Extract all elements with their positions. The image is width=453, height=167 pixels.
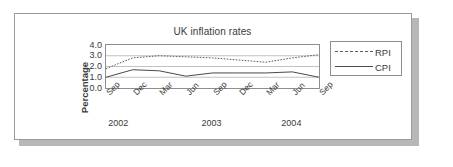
chart-legend: RPI CPI xyxy=(330,41,402,76)
chart-title: UK inflation rates xyxy=(100,26,325,37)
y-tick-label: 3.0 xyxy=(89,51,102,60)
x-axis-year-group-labels: 200220032004 xyxy=(105,118,320,132)
y-tick-label: 2.0 xyxy=(89,62,102,71)
legend-line-solid-icon xyxy=(335,62,373,72)
screenshot-root: UK inflation rates Percentage 0.01.02.03… xyxy=(0,0,453,167)
legend-line-dotted-icon xyxy=(335,47,373,57)
legend-label-cpi: CPI xyxy=(375,62,391,73)
y-tick-label: 0.0 xyxy=(89,84,102,93)
year-group-label: 2004 xyxy=(281,118,301,128)
legend-item-rpi: RPI xyxy=(331,44,401,60)
x-axis-tick-labels: SepDecMarJunSepDecMarJunSep xyxy=(105,90,320,116)
y-axis-title-container: Percentage xyxy=(62,40,76,90)
year-group-label: 2002 xyxy=(108,118,128,128)
y-tick-label: 1.0 xyxy=(89,73,102,82)
legend-item-cpi: CPI xyxy=(331,59,401,75)
y-tick-label: 4.0 xyxy=(89,41,102,50)
y-axis-tick-labels: 0.01.02.03.04.0 xyxy=(78,40,102,90)
legend-label-rpi: RPI xyxy=(375,47,391,58)
year-group-label: 2003 xyxy=(201,118,221,128)
series-line-cpi xyxy=(106,70,319,78)
